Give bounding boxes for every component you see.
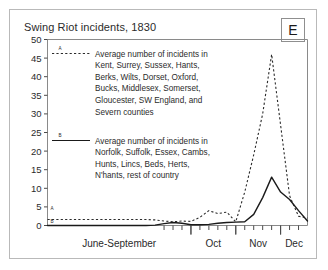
y-tick-label: 35 xyxy=(31,90,42,101)
line-chart-svg: 05101520253035404550 June-SeptemberOctNo… xyxy=(10,10,318,260)
x-axis-ticks xyxy=(48,226,308,235)
legend-label-line: Hunts, Lincs, Beds, Herts, xyxy=(95,160,190,169)
origin-marker-b: B xyxy=(50,219,53,224)
x-tick-label: Nov xyxy=(249,238,267,249)
legend-label-line: Gloucester, SW England, and xyxy=(95,96,203,105)
legend-label-line: Berks, Wilts, Dorset, Oxford, xyxy=(95,73,198,82)
series-b-line xyxy=(48,177,308,225)
x-tick-label: Dec xyxy=(285,238,303,249)
origin-series-markers: A B xyxy=(50,206,54,224)
y-tick-label: 45 xyxy=(31,53,42,64)
legend-label-line: Average number of incidents in xyxy=(95,137,208,146)
y-tick-label: 20 xyxy=(31,146,42,157)
y-tick-label: 5 xyxy=(36,201,41,212)
y-tick-label: 50 xyxy=(31,34,42,45)
x-tick-label: Oct xyxy=(206,238,222,249)
y-tick-label: 40 xyxy=(31,71,42,82)
x-axis-labels: June-SeptemberOctNovDec xyxy=(82,238,303,249)
legend-key-a-letter: A xyxy=(58,46,62,51)
legend-label-line: Average number of incidents in xyxy=(95,50,208,59)
chart-plot-area: 05101520253035404550 June-SeptemberOctNo… xyxy=(10,10,318,260)
legend-label-line: Bucks, Middlesex, Somerset, xyxy=(95,84,201,93)
legend: A Average number of incidents inKent, Su… xyxy=(52,46,210,180)
y-tick-label: 30 xyxy=(31,108,42,119)
y-tick-label: 25 xyxy=(31,127,42,138)
y-tick-label: 0 xyxy=(36,220,41,231)
x-tick-label: June-September xyxy=(82,238,157,249)
y-tick-label: 15 xyxy=(31,164,42,175)
legend-label-line: Norfolk, Suffolk, Essex, Cambs, xyxy=(95,148,210,157)
legend-label-b: Average number of incidents inNorfolk, S… xyxy=(95,137,210,181)
y-tick-label: 10 xyxy=(31,183,42,194)
chart-card: Swing Riot incidents, 1830 E 05101520253… xyxy=(9,9,317,259)
legend-entry-a: A Average number of incidents inKent, Su… xyxy=(52,46,208,117)
y-axis: 05101520253035404550 xyxy=(31,34,48,231)
legend-key-b-letter: B xyxy=(58,133,61,138)
legend-label-line: Kent, Surrey, Sussex, Hants, xyxy=(95,61,200,70)
legend-label-a: Average number of incidents inKent, Surr… xyxy=(95,50,208,117)
legend-entry-b: B Average number of incidents inNorfolk,… xyxy=(52,133,210,180)
legend-label-line: N'hants, rest of country xyxy=(95,171,180,180)
origin-marker-a: A xyxy=(50,206,54,211)
legend-label-line: Severn counties xyxy=(95,108,154,117)
